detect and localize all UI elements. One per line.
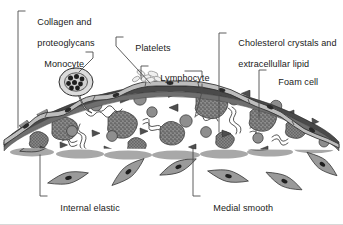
label-collagen-line2: proteoglycans <box>37 38 94 48</box>
label-smc-line1: Medial smooth <box>213 203 273 213</box>
label-cholesterol-line1: Cholesterol crystals and <box>238 38 336 48</box>
label-platelets: Platelets <box>125 32 171 64</box>
label-foam-cell-text: Foam cell <box>278 77 318 87</box>
label-lymphocyte-text: Lymphocyte <box>160 73 209 83</box>
label-iel-line1: Internal elastic <box>60 203 119 213</box>
label-monocyte: Monocyte <box>34 48 84 80</box>
leader-collagen <box>18 11 25 128</box>
label-medial-smooth-muscle-cells: Medial smooth muscle cells <box>203 192 273 225</box>
label-smc-line2: muscle cells <box>213 224 263 225</box>
label-platelets-text: Platelets <box>135 43 170 53</box>
label-foam-cell: Foam cell <box>268 66 318 98</box>
label-collagen-line1: Collagen and <box>37 17 91 27</box>
label-lymphocyte: Lymphocyte <box>150 62 210 94</box>
label-monocyte-text: Monocyte <box>44 59 84 69</box>
atherosclerosis-figure: Collagen and proteoglycans Monocyte Plat… <box>0 0 343 225</box>
label-iel-line2: lamina <box>60 224 87 225</box>
leader-iel <box>40 155 47 196</box>
label-internal-elastic-lamina: Internal elastic lamina <box>50 192 120 225</box>
